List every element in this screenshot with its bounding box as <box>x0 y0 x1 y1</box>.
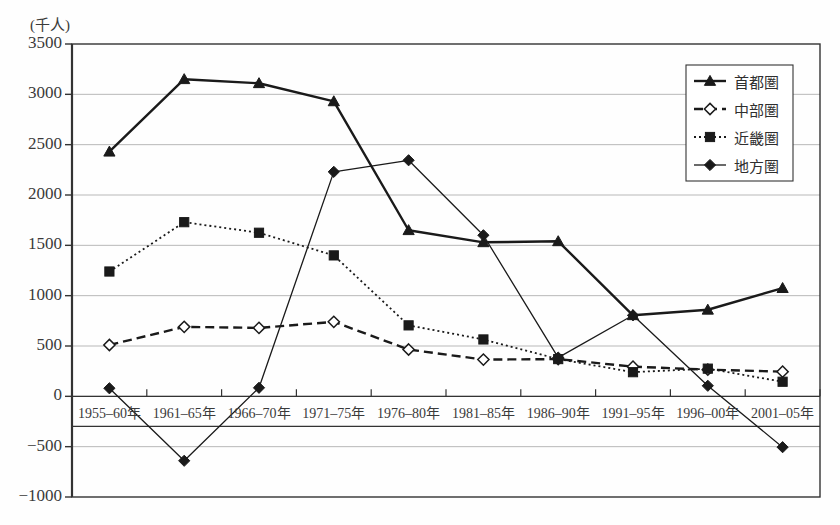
marker-diamond <box>328 166 339 177</box>
marker-diamond-open <box>777 366 788 377</box>
marker-square <box>703 364 712 373</box>
marker-triangle <box>403 225 414 235</box>
x-axis-tick-label: 2001–05年 <box>738 402 828 422</box>
marker-square <box>705 132 714 141</box>
y-axis-tick-label: 0 <box>0 385 62 405</box>
marker-diamond-open <box>253 322 264 333</box>
y-axis-tick-label: 1000 <box>0 285 62 305</box>
marker-diamond-open <box>478 354 489 365</box>
marker-triangle <box>777 283 788 293</box>
y-axis-tick-label: 3500 <box>0 33 62 53</box>
marker-diamond-open <box>179 321 190 332</box>
series-line <box>109 222 782 382</box>
marker-square <box>105 267 114 276</box>
marker-diamond-open <box>104 339 115 350</box>
marker-square <box>329 251 338 260</box>
y-axis-tick-label: −500 <box>0 436 62 456</box>
marker-square <box>628 368 637 377</box>
marker-square <box>254 228 263 237</box>
marker-square <box>404 321 413 330</box>
series-line <box>109 322 782 372</box>
marker-diamond-open <box>328 316 339 327</box>
series-2 <box>104 316 788 377</box>
y-axis-tick-label: −1000 <box>0 486 62 506</box>
y-axis-tick-label: 2500 <box>0 134 62 154</box>
y-axis-tick-label: 500 <box>0 335 62 355</box>
legend-label-4[interactable]: 地方圏 <box>734 155 779 176</box>
y-axis-tick-label: 1500 <box>0 234 62 254</box>
line-chart <box>0 0 840 525</box>
legend-label-2[interactable]: 中部圏 <box>734 99 779 120</box>
legend-label-3[interactable]: 近畿圏 <box>734 127 779 148</box>
y-axis-tick-label: 3000 <box>0 83 62 103</box>
series-3 <box>105 218 787 387</box>
chart-page: (千人) 3500300025002000150010005000−500−10… <box>0 0 840 525</box>
y-axis-tick-label: 2000 <box>0 184 62 204</box>
marker-square <box>180 218 189 227</box>
marker-square <box>479 335 488 344</box>
marker-square <box>778 377 787 386</box>
legend-label-1[interactable]: 首都圏 <box>734 71 779 92</box>
